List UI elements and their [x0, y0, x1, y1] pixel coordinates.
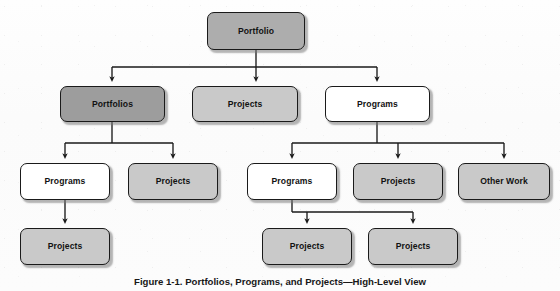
- node-programs-level2[interactable]: Programs: [325, 86, 430, 122]
- node-label: Projects: [228, 99, 263, 109]
- node-label: Projects: [396, 242, 431, 252]
- node-label: Projects: [381, 177, 416, 187]
- node-projects-level4-mid[interactable]: Projects: [262, 228, 352, 265]
- figure-caption: Figure 1-1. Portfolios, Programs, and Pr…: [0, 276, 560, 291]
- node-label: Projects: [48, 242, 83, 252]
- node-portfolio-root[interactable]: Portfolio: [207, 12, 305, 50]
- node-projects-level4-right[interactable]: Projects: [368, 228, 458, 265]
- node-programs-level3-left[interactable]: Programs: [20, 163, 110, 200]
- node-other-work[interactable]: Other Work: [458, 163, 550, 200]
- node-label: Portfolio: [238, 26, 274, 36]
- node-projects-level3-left[interactable]: Projects: [128, 163, 218, 200]
- node-projects-level3-right[interactable]: Projects: [353, 163, 443, 200]
- node-label: Other Work: [480, 177, 528, 187]
- figure-canvas: Portfolio Portfolios Projects Programs P…: [0, 0, 560, 291]
- node-projects-level2[interactable]: Projects: [192, 86, 298, 122]
- node-programs-level3-right[interactable]: Programs: [247, 163, 337, 200]
- node-label: Programs: [272, 177, 313, 187]
- node-portfolios[interactable]: Portfolios: [60, 86, 165, 122]
- node-label: Portfolios: [92, 99, 133, 109]
- node-label: Projects: [156, 177, 191, 187]
- node-label: Projects: [290, 242, 325, 252]
- node-projects-level4-left[interactable]: Projects: [20, 228, 110, 265]
- node-label: Programs: [357, 99, 398, 109]
- node-label: Programs: [45, 177, 86, 187]
